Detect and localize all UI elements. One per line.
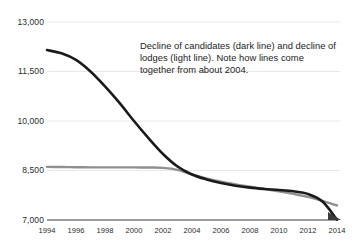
x-tick-label: 2008 <box>241 226 258 235</box>
chart-container: 7,0008,50010,00011,50013,000 19941996199… <box>0 0 352 247</box>
x-tick-label: 2010 <box>270 226 287 235</box>
x-tick-label: 2012 <box>299 226 316 235</box>
x-tick-label: 1994 <box>38 226 55 235</box>
x-axis-tick-labels: 1994199619982000200220042006200820102012… <box>0 0 352 247</box>
x-tick-label: 2014 <box>328 226 345 235</box>
x-tick-label: 2004 <box>183 226 200 235</box>
chart-annotation: Decline of candidates (dark line) and de… <box>140 40 340 76</box>
x-tick-label: 2002 <box>154 226 171 235</box>
x-tick-label: 2000 <box>125 226 142 235</box>
x-tick-label: 2006 <box>212 226 229 235</box>
x-tick-label: 1998 <box>96 226 113 235</box>
x-tick-label: 1996 <box>67 226 84 235</box>
